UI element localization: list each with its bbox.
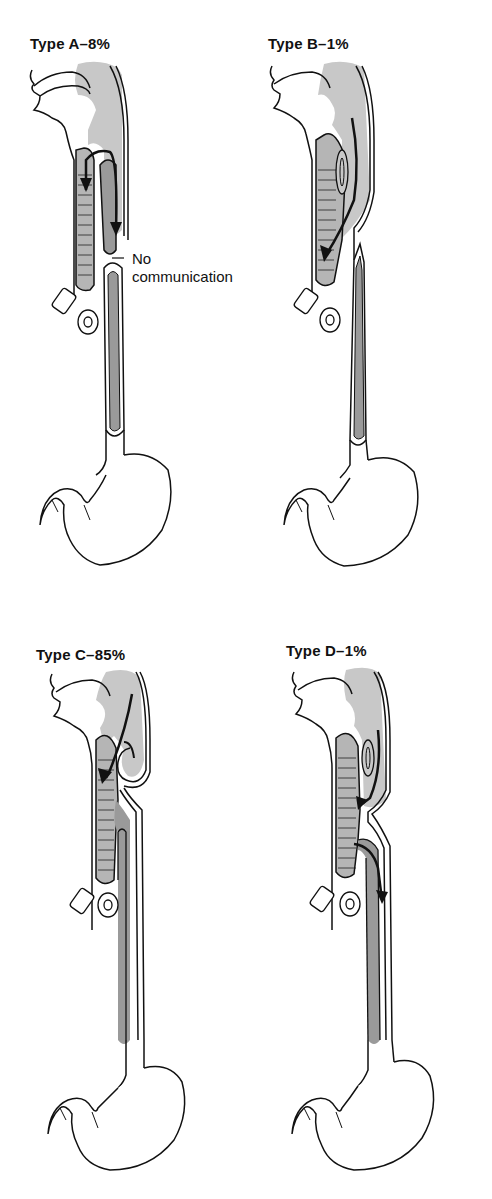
panel-type-d: Type D–1% xyxy=(246,600,492,1199)
type-d-illustration xyxy=(246,600,492,1199)
panel-type-b: Type B–1% xyxy=(246,0,492,600)
type-c-illustration xyxy=(0,600,246,1199)
panel-type-a: Type A–8% xyxy=(0,0,246,600)
type-b-illustration xyxy=(246,0,492,600)
no-communication-label: No communication xyxy=(132,250,233,286)
type-a-illustration xyxy=(0,0,246,600)
panel-type-c: Type C–85% xyxy=(0,600,246,1199)
